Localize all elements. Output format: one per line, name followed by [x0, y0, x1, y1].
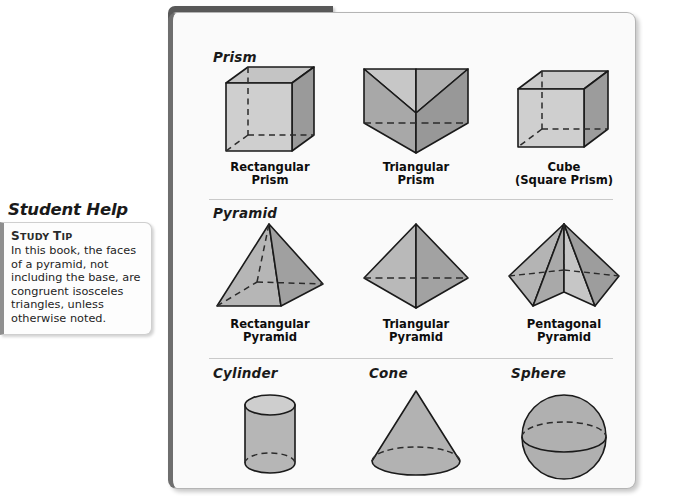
figure-pentagonal-pyramid: Pentagonal Pyramid: [489, 218, 639, 345]
sphere-svg: [506, 385, 622, 485]
figure-rectangular-prism: Rectangular Prism: [195, 61, 345, 188]
shape-sphere: [489, 385, 639, 485]
student-help-title: Student Help: [0, 200, 152, 219]
divider-prism-pyramid: [209, 199, 613, 200]
caption-triangular-pyramid-line1: Triangular: [341, 318, 491, 331]
caption-rectangular-prism-line2: Prism: [195, 174, 345, 187]
caption-triangular-prism-line2: Prism: [341, 174, 491, 187]
rectangular-pyramid-svg: [211, 218, 329, 318]
figure-cube: Cube (Square Prism): [489, 61, 639, 188]
shape-triangular-pyramid: [341, 218, 491, 318]
triangular-prism-svg: [358, 61, 474, 161]
caption-triangular-pyramid-line2: Pyramid: [341, 331, 491, 344]
figure-triangular-prism: Triangular Prism: [341, 61, 491, 188]
study-tip-label: STUDY TIP: [11, 229, 143, 243]
divider-pyramid-curved: [209, 358, 613, 359]
study-tip-body: In this book, the faces of a pyramid, no…: [11, 244, 143, 326]
pentagonal-pyramid-svg: [503, 218, 625, 318]
types-of-solids-panel: Prism Rectangular: [168, 12, 636, 489]
row-label-sphere: Sphere: [511, 365, 566, 381]
shape-rectangular-pyramid: [195, 218, 345, 318]
figure-cylinder: [195, 385, 345, 485]
caption-pentagonal-pyramid-line2: Pyramid: [489, 331, 639, 344]
study-tip-box: STUDY TIP In this book, the faces of a p…: [0, 222, 152, 335]
caption-rectangular-pyramid-line2: Pyramid: [195, 331, 345, 344]
cylinder-svg: [215, 385, 325, 485]
cone-svg: [358, 385, 474, 485]
caption-pentagonal-pyramid-line1: Pentagonal: [489, 318, 639, 331]
shape-triangular-prism: [341, 61, 491, 161]
caption-triangular-prism-line1: Triangular: [341, 161, 491, 174]
caption-cube-line1: Cube: [489, 161, 639, 174]
figure-cone: [341, 385, 491, 485]
shape-rectangular-prism: [195, 61, 345, 161]
figure-triangular-pyramid: Triangular Pyramid: [341, 218, 491, 345]
cube-svg: [508, 61, 620, 161]
caption-rectangular-pyramid-line1: Rectangular: [195, 318, 345, 331]
shape-cone: [341, 385, 491, 485]
row-label-cone: Cone: [369, 365, 408, 381]
rectangular-prism-svg: [216, 61, 324, 161]
row-label-cylinder: Cylinder: [213, 365, 278, 381]
student-help-sidebar: Student Help STUDY TIP In this book, the…: [0, 200, 152, 335]
caption-rectangular-prism-line1: Rectangular: [195, 161, 345, 174]
figure-sphere: [489, 385, 639, 485]
triangular-pyramid-svg: [358, 218, 474, 318]
figure-rectangular-pyramid: Rectangular Pyramid: [195, 218, 345, 345]
shape-cylinder: [195, 385, 345, 485]
shape-pentagonal-pyramid: [489, 218, 639, 318]
shape-cube: [489, 61, 639, 161]
caption-cube-line2: (Square Prism): [489, 174, 639, 187]
